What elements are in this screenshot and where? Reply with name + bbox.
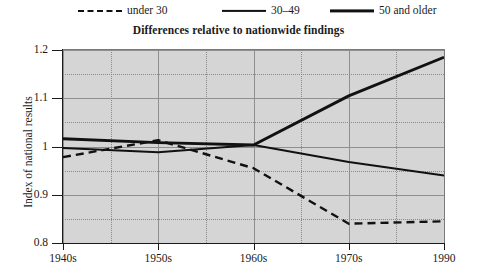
chart-root: under 30 30–49 50 and older Differences … xyxy=(0,0,477,279)
x-axis-tick xyxy=(349,243,350,250)
series-line-50-and-older xyxy=(63,57,444,145)
series-line-under-30 xyxy=(63,140,444,223)
x-axis-tick-label: 1990 xyxy=(433,252,456,264)
y-axis-tick xyxy=(52,98,63,99)
chart-title: Differences relative to nationwide findi… xyxy=(0,24,477,36)
plot-area xyxy=(63,50,444,243)
dashed-line-icon xyxy=(78,6,122,16)
x-axis-tick-label: 1970s xyxy=(335,252,362,264)
y-axis-tick xyxy=(52,195,63,196)
y-axis-tick-label: 0.8 xyxy=(0,237,48,249)
axis-top-border xyxy=(63,49,444,50)
x-axis-tick-label: 1950s xyxy=(145,252,172,264)
x-axis-tick xyxy=(63,243,64,250)
legend-item-50-and-older: 50 and older xyxy=(330,0,436,22)
legend-label: 30–49 xyxy=(271,5,300,17)
y-axis-tick-label: 0.9 xyxy=(0,189,48,201)
solid-line-icon xyxy=(222,6,266,16)
y-axis-tick xyxy=(52,243,63,244)
legend-label: under 30 xyxy=(127,5,168,17)
x-axis-tick xyxy=(254,243,255,250)
x-axis-tick-label: 1960s xyxy=(240,252,267,264)
y-axis-tick-label: 1.1 xyxy=(0,92,48,104)
thick-line-icon xyxy=(330,6,374,16)
chart-legend: under 30 30–49 50 and older xyxy=(0,0,477,22)
legend-item-30-49: 30–49 xyxy=(222,0,300,22)
series-lines xyxy=(63,50,444,243)
series-line-30-49 xyxy=(63,145,444,175)
legend-label: 50 and older xyxy=(379,5,436,17)
y-axis-tick xyxy=(52,147,63,148)
x-axis-tick xyxy=(158,243,159,250)
x-axis-tick xyxy=(444,243,445,250)
y-axis-tick-label: 1.2 xyxy=(0,44,48,56)
axis-right-border xyxy=(444,49,445,244)
y-axis-tick xyxy=(52,50,63,51)
y-axis-tick-label: 1 xyxy=(0,141,48,153)
y-axis-labels: 0.80.911.11.2 xyxy=(0,0,52,279)
x-axis-tick-label: 1940s xyxy=(49,252,76,264)
legend-item-under-30: under 30 xyxy=(78,0,168,22)
